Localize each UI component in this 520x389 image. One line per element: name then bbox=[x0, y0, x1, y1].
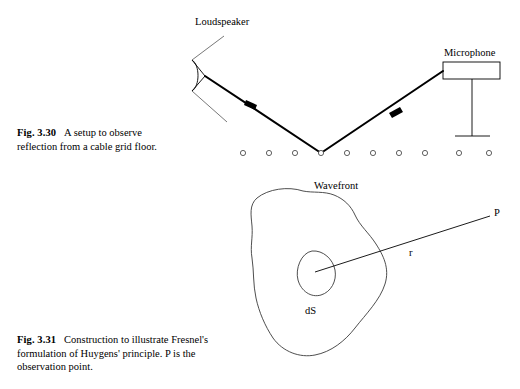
radius-label-r: r bbox=[409, 247, 413, 258]
incident-ray-arrowhead bbox=[244, 100, 257, 110]
radius-line-r bbox=[315, 216, 490, 272]
grid-circle bbox=[344, 150, 349, 155]
figures-canvas: Loudspeaker Microphone bbox=[0, 0, 520, 389]
grid-circle-reflection-point bbox=[318, 150, 323, 155]
grid-circle bbox=[422, 150, 427, 155]
grid-circle bbox=[396, 150, 401, 155]
reflected-ray bbox=[321, 71, 443, 153]
figure-3-30-caption: Fig. 3.30A setup to observe reflection f… bbox=[17, 126, 207, 153]
surface-element-dS bbox=[297, 251, 335, 296]
grid-circle bbox=[456, 150, 461, 155]
figure-3-31-number: Fig. 3.31 bbox=[17, 334, 56, 345]
figure-3-30-caption-line-2: reflection from a cable grid floor. bbox=[17, 141, 157, 152]
fig-3-30-drawing: Loudspeaker Microphone bbox=[192, 16, 500, 156]
loudspeaker-leader-line bbox=[192, 36, 224, 60]
reflected-ray-arrowhead bbox=[389, 107, 403, 118]
figure-3-31-caption-line-2: formulation of Huygens' principle. P is … bbox=[17, 348, 196, 359]
loudspeaker-diaphragm-arc bbox=[192, 60, 198, 91]
point-P-label: P bbox=[494, 207, 500, 218]
figure-3-30-caption-line-1: A setup to observe bbox=[64, 127, 142, 138]
loudspeaker-upper-edge bbox=[192, 60, 205, 76]
grid-circle bbox=[370, 150, 375, 155]
wavefront-outline bbox=[251, 189, 387, 356]
grid-circle bbox=[292, 150, 297, 155]
microphone-icon bbox=[443, 62, 500, 136]
fig-3-31-drawing: Wavefront dS r P bbox=[251, 180, 500, 356]
figure-3-31-caption-line-3: observation point. bbox=[17, 361, 93, 372]
cable-grid-floor bbox=[240, 150, 491, 155]
microphone-body bbox=[443, 62, 500, 79]
loudspeaker-beam-guide-lower bbox=[192, 91, 227, 122]
microphone-label: Microphone bbox=[444, 47, 496, 58]
grid-circle bbox=[486, 150, 491, 155]
incident-ray bbox=[205, 76, 321, 153]
figure-3-31-caption: Fig. 3.31Construction to illustrate Fres… bbox=[17, 333, 212, 374]
figure-page: Loudspeaker Microphone bbox=[0, 0, 520, 389]
figure-3-30-number: Fig. 3.30 bbox=[17, 127, 56, 138]
loudspeaker-label: Loudspeaker bbox=[195, 16, 250, 27]
grid-circle bbox=[240, 150, 245, 155]
figure-3-31-caption-line-1: Construction to illustrate Fresnel's bbox=[64, 334, 208, 345]
grid-circle bbox=[266, 150, 271, 155]
wavefront-label: Wavefront bbox=[314, 180, 358, 191]
dS-label: dS bbox=[305, 305, 316, 316]
